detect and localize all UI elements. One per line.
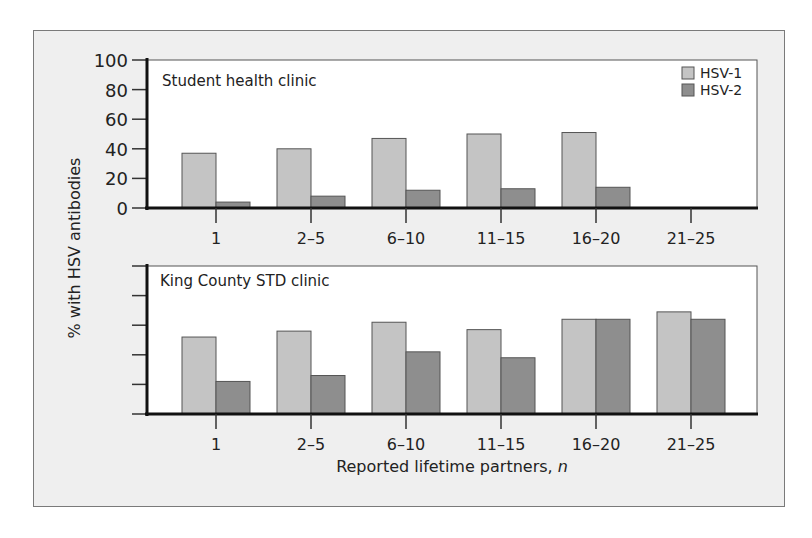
- x-tick-label: 6–10: [387, 435, 426, 454]
- x-tick-label: 6–10: [387, 229, 426, 248]
- x-tick-label: 1: [211, 229, 221, 248]
- top-y-axis: 020406080100: [94, 50, 147, 219]
- top-panel-title: Student health clinic: [162, 72, 317, 90]
- bar-hsv-1-3: [467, 134, 501, 208]
- y-tick-label: 100: [94, 50, 128, 71]
- top-x-axis: 12–56–1011–1516–2021–25: [211, 208, 715, 248]
- bar-hsv-2-3: [501, 189, 535, 208]
- legend-label-hsv2: HSV-2: [700, 82, 742, 98]
- bar-hsv-1-4: [562, 133, 596, 208]
- bar-hsv-2-2: [406, 190, 440, 208]
- bar-hsv-2-1: [311, 376, 345, 414]
- bar-hsv-2-1: [311, 196, 345, 208]
- x-tick-label: 21–25: [667, 229, 716, 248]
- x-tick-label: 2–5: [297, 229, 325, 248]
- bottom-panel: King County STD clinic 12–56–1011–1516–2…: [132, 264, 758, 454]
- x-tick-label: 1: [211, 435, 221, 454]
- x-axis-label: Reported lifetime partners, n: [336, 457, 568, 476]
- bar-hsv-2-5: [691, 319, 725, 414]
- y-tick-label: 40: [105, 139, 128, 160]
- x-tick-label: 11–15: [477, 229, 526, 248]
- y-tick-label: 80: [105, 80, 128, 101]
- y-tick-label: 0: [117, 198, 128, 219]
- bar-hsv-2-0: [216, 381, 250, 414]
- top-panel: Student health clinic 020406080100 12–56…: [94, 50, 758, 248]
- legend-label-hsv1: HSV-1: [700, 65, 742, 81]
- x-tick-label: 16–20: [572, 435, 621, 454]
- bar-hsv-1-1: [277, 149, 311, 208]
- hsv-bar-chart: Student health clinic 020406080100 12–56…: [0, 0, 812, 538]
- x-tick-label: 11–15: [477, 435, 526, 454]
- bar-hsv-1-4: [562, 319, 596, 414]
- bottom-y-axis: [132, 266, 147, 414]
- bar-hsv-1-0: [182, 337, 216, 414]
- bar-hsv-2-4: [596, 319, 630, 414]
- bar-hsv-1-1: [277, 331, 311, 414]
- bottom-x-axis: 12–56–1011–1516–2021–25: [211, 414, 715, 454]
- x-axis-label-italic: n: [558, 457, 568, 476]
- y-tick-label: 60: [105, 109, 128, 130]
- bottom-panel-title: King County STD clinic: [160, 272, 330, 290]
- x-tick-label: 21–25: [667, 435, 716, 454]
- bar-hsv-1-0: [182, 153, 216, 208]
- x-tick-label: 16–20: [572, 229, 621, 248]
- y-tick-label: 20: [105, 168, 128, 189]
- y-axis-label: % with HSV antibodies: [65, 158, 84, 339]
- bar-hsv-1-3: [467, 330, 501, 414]
- x-axis-label-main: Reported lifetime partners,: [336, 457, 558, 476]
- x-tick-label: 2–5: [297, 435, 325, 454]
- bar-hsv-2-4: [596, 187, 630, 208]
- bar-hsv-1-5: [657, 312, 691, 414]
- bar-hsv-1-2: [372, 138, 406, 208]
- legend-swatch-hsv2: [682, 84, 694, 96]
- bar-hsv-2-2: [406, 352, 440, 414]
- legend-swatch-hsv1: [682, 67, 694, 79]
- bar-hsv-2-3: [501, 358, 535, 414]
- bar-hsv-1-2: [372, 322, 406, 414]
